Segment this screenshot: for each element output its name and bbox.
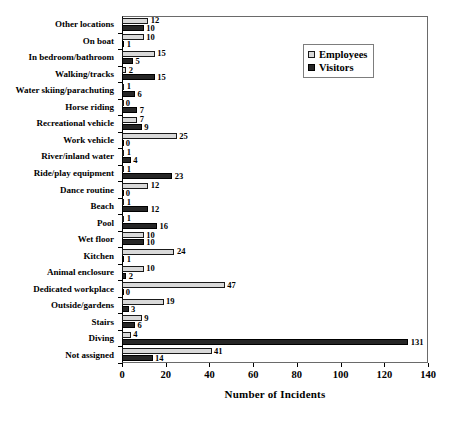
value-axis-tick	[122, 363, 123, 367]
bar-value-label-visitors: 131	[411, 338, 424, 346]
bar-group: 241	[122, 247, 428, 264]
bar-value-label-employees: 0	[126, 99, 130, 107]
legend-item-employees: Employees	[308, 48, 367, 61]
bar-value-label-employees: 4	[133, 330, 137, 338]
bar-employees	[122, 67, 126, 73]
bar-value-label-visitors: 2	[129, 272, 133, 280]
bar-group: 193	[122, 297, 428, 314]
category-label: Water skiing/parachuting	[15, 85, 114, 95]
bar-value-label-visitors: 12	[151, 205, 160, 213]
category-label: Not assigned	[65, 350, 114, 360]
bar-value-label-employees: 12	[151, 181, 160, 189]
bar-value-label-employees: 1	[127, 165, 131, 173]
bar-visitors	[122, 107, 137, 113]
category-label: Horse riding	[65, 102, 114, 112]
legend-item-visitors: Visitors	[308, 61, 367, 74]
bar-value-label-employees: 19	[166, 297, 175, 305]
light-square-swatch	[308, 51, 315, 58]
bar-group: 123	[122, 165, 428, 182]
bar-visitors	[122, 124, 142, 130]
value-axis-tick	[341, 363, 342, 367]
incidents-bar-chart: Other locationsOn boatIn bedroom/bathroo…	[0, 0, 452, 421]
bar-value-label-visitors: 14	[155, 354, 164, 362]
bar-rows-container: 1210101155215160779250141231201121161010…	[122, 16, 428, 363]
bar-employees	[122, 232, 144, 238]
bar-value-label-visitors: 3	[131, 305, 135, 313]
bar-visitors	[122, 74, 155, 80]
value-axis-tick-label: 0	[119, 369, 124, 380]
bar-group: 215	[122, 66, 428, 83]
bar-value-label-employees: 2	[129, 66, 133, 74]
bar-value-label-employees: 10	[146, 33, 155, 41]
bar-value-label-employees: 47	[227, 281, 236, 289]
bar-value-label-visitors: 9	[144, 123, 148, 131]
category-label: In bedroom/bathroom	[29, 52, 114, 62]
bar-group: 79	[122, 115, 428, 132]
legend-label-visitors: Visitors	[319, 62, 354, 73]
category-label: Kitchen	[84, 251, 115, 261]
category-label: Stairs	[92, 317, 115, 327]
value-axis-tick-label: 20	[160, 369, 171, 380]
bar-group: 4114	[122, 346, 428, 363]
bar-value-label-employees: 24	[177, 247, 186, 255]
bar-value-label-visitors: 6	[138, 321, 142, 329]
value-axis-tick	[297, 363, 298, 367]
bar-employees	[122, 199, 124, 205]
bar-employees	[122, 84, 124, 90]
bar-group: 07	[122, 99, 428, 116]
bar-group: 102	[122, 264, 428, 281]
value-axis-tick-label: 60	[248, 369, 259, 380]
bar-value-label-employees: 1	[127, 82, 131, 90]
value-axis-tick-label: 120	[376, 369, 392, 380]
bar-value-label-visitors: 23	[175, 172, 184, 180]
bar-group: 470	[122, 280, 428, 297]
bar-visitors	[122, 41, 124, 47]
bar-value-label-visitors: 15	[157, 73, 166, 81]
bar-value-label-employees: 1	[127, 198, 131, 206]
bar-value-label-visitors: 1	[127, 255, 131, 263]
value-axis-tick	[253, 363, 254, 367]
bar-visitors	[122, 206, 148, 212]
bar-visitors	[122, 25, 144, 31]
bar-value-label-employees: 10	[146, 264, 155, 272]
bar-employees	[122, 332, 131, 338]
bar-value-label-visitors: 1	[127, 40, 131, 48]
legend-label-employees: Employees	[319, 49, 367, 60]
bar-value-label-visitors: 0	[126, 189, 130, 197]
bar-group: 155	[122, 49, 428, 66]
bar-value-label-visitors: 16	[159, 222, 168, 230]
bar-value-label-visitors: 5	[135, 57, 139, 65]
value-axis-tick	[428, 363, 429, 367]
bar-employees	[122, 117, 137, 123]
bar-group: 120	[122, 181, 428, 198]
bar-group: 101	[122, 33, 428, 50]
bar-employees	[122, 34, 144, 40]
category-label: Animal enclosure	[47, 267, 114, 277]
category-label: Recreational vehicle	[36, 118, 114, 128]
bar-value-label-employees: 1	[127, 214, 131, 222]
bar-visitors	[122, 190, 124, 196]
value-axis-tick-label: 40	[204, 369, 215, 380]
bar-value-label-employees: 41	[214, 347, 223, 355]
value-axis-tick	[166, 363, 167, 367]
value-axis-tick-label: 100	[333, 369, 349, 380]
bar-employees	[122, 150, 124, 156]
bar-value-label-employees: 15	[157, 49, 166, 57]
bar-value-label-employees: 25	[179, 132, 188, 140]
bar-employees	[122, 100, 124, 106]
category-label: Dance routine	[60, 185, 114, 195]
dark-square-swatch	[308, 64, 315, 71]
bar-value-label-visitors: 10	[146, 24, 155, 32]
bar-visitors	[122, 58, 133, 64]
category-label: Beach	[91, 201, 115, 211]
bar-group: 4131	[122, 330, 428, 347]
bar-group: 16	[122, 82, 428, 99]
category-label: Wet floor	[78, 234, 114, 244]
bar-group: 1010	[122, 231, 428, 248]
bar-visitors	[122, 339, 408, 345]
bar-visitors	[122, 173, 172, 179]
bar-value-label-visitors: 7	[140, 106, 144, 114]
category-label: Ride/play equipment	[34, 168, 114, 178]
category-label: Walking/tracks	[55, 69, 114, 79]
bar-group: 14	[122, 148, 428, 165]
